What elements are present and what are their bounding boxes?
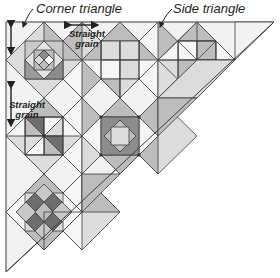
quilt-diagram xyxy=(0,0,280,278)
straight-grain-label-left: Straight grain xyxy=(9,100,45,120)
straight-grain-label-top: Straight grain xyxy=(69,29,105,49)
straight-grain-left-line2: grain xyxy=(9,110,45,120)
straight-grain-top-line2: grain xyxy=(69,39,105,49)
side-triangle-label: Side triangle xyxy=(173,1,245,16)
corner-triangle-label: Corner triangle xyxy=(36,1,122,16)
